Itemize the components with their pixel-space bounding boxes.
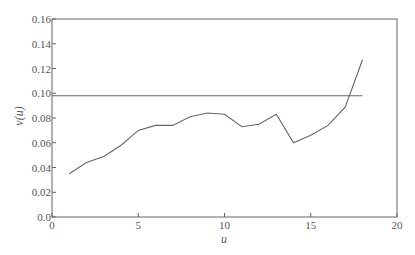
line-chart: 05101520 0.00.020.040.060.080.100.120.14… [0, 0, 415, 255]
y-tick-label: 0.08 [32, 112, 52, 124]
y-tick-label: 0.16 [32, 13, 52, 25]
y-tick-label: 0.14 [32, 38, 52, 50]
y-tick-label: 0.06 [32, 137, 52, 149]
x-tick-label: 20 [392, 219, 404, 231]
x-tick-label: 10 [219, 219, 231, 231]
y-tick-label: 0.10 [32, 87, 52, 99]
y-tick-label: 0.04 [32, 162, 52, 174]
x-axis-label: u [221, 232, 227, 246]
y-axis-label: v(u) [12, 106, 26, 125]
y-tick-label: 0.12 [32, 63, 51, 75]
y-tick-label: 0.0 [37, 211, 51, 223]
plot-border [52, 19, 397, 217]
series-layer [52, 60, 363, 174]
data-line-v-u [69, 60, 362, 174]
y-tick-label: 0.02 [32, 186, 51, 198]
plot-frame [52, 19, 397, 217]
x-tick-label: 5 [136, 219, 142, 231]
x-tick-label: 15 [305, 219, 317, 231]
x-axis-ticks: 05101520 [49, 213, 403, 231]
